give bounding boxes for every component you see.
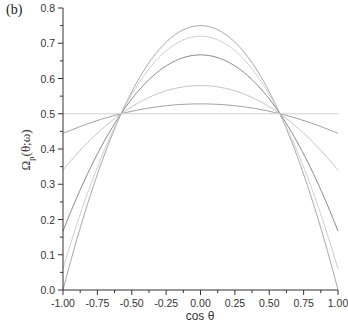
y-tick-label: 0.1 xyxy=(40,249,55,261)
x-tick-label: -0.75 xyxy=(85,297,109,309)
x-axis-title: cos θ xyxy=(186,309,215,323)
y-tick-label: 0.7 xyxy=(40,37,55,49)
line-chart: 0.00.10.20.30.40.50.60.70.8-1.00-0.75-0.… xyxy=(0,0,348,327)
x-tick-label: 0.00 xyxy=(190,297,211,309)
series-curve-4 xyxy=(63,86,338,171)
y-tick-label: 0.0 xyxy=(40,284,55,296)
chart-axes: 0.00.10.20.30.40.50.60.70.8-1.00-0.75-0.… xyxy=(40,2,348,309)
chart-curves xyxy=(63,26,338,290)
y-tick-label: 0.4 xyxy=(40,143,55,155)
x-tick-label: 0.75 xyxy=(293,297,314,309)
x-tick-label: 1.00 xyxy=(328,297,348,309)
series-curve-1 xyxy=(63,26,338,290)
x-tick-label: -1.00 xyxy=(51,297,75,309)
series-curve-2 xyxy=(63,36,338,269)
x-tick-label: 0.50 xyxy=(259,297,280,309)
y-tick-label: 0.8 xyxy=(40,2,55,14)
y-tick-label: 0.2 xyxy=(40,214,55,226)
x-tick-label: -0.25 xyxy=(154,297,178,309)
series-curve-5 xyxy=(63,104,338,134)
series-curve-3 xyxy=(63,55,338,231)
y-tick-label: 0.3 xyxy=(40,178,55,190)
x-tick-label: 0.25 xyxy=(225,297,246,309)
x-tick-label: -0.50 xyxy=(120,297,144,309)
y-tick-label: 0.5 xyxy=(40,108,55,120)
y-axis-title: Ωp(θ;ω) xyxy=(18,129,36,170)
y-tick-label: 0.6 xyxy=(40,73,55,85)
